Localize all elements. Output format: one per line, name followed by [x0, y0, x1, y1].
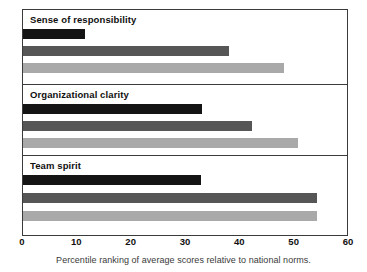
panel-bar-group: [23, 175, 347, 229]
bar-bar-1: [23, 29, 85, 39]
bar-row: [23, 121, 347, 131]
bar-row: [23, 211, 347, 221]
bar-bar-2: [23, 193, 317, 203]
panel-label: Sense of responsibility: [30, 14, 136, 25]
bar-row: [23, 63, 347, 73]
bar-bar-3: [23, 211, 317, 221]
x-tick-label-60: 60: [343, 236, 354, 247]
x-axis: 0102030405060: [22, 236, 348, 252]
bar-bar-1: [23, 175, 201, 185]
panel-bar-group: [23, 104, 347, 155]
panel-bar-group: [23, 29, 347, 80]
bar-row: [23, 175, 347, 185]
chart-caption: Percentile ranking of average scores rel…: [0, 255, 367, 265]
bar-bar-3: [23, 138, 298, 148]
x-tick-label-50: 50: [288, 236, 299, 247]
plot-area: Sense of responsibilityOrganizational cl…: [22, 9, 348, 236]
chart-panel: Team spirit: [23, 156, 347, 234]
x-tick-label-30: 30: [180, 236, 191, 247]
x-tick-label-0: 0: [19, 236, 24, 247]
panel-label: Team spirit: [30, 160, 81, 171]
x-tick-label-20: 20: [125, 236, 136, 247]
bar-bar-2: [23, 121, 252, 131]
bar-chart-figure: Sense of responsibilityOrganizational cl…: [0, 0, 367, 272]
chart-panel: Organizational clarity: [23, 85, 347, 156]
x-tick-label-10: 10: [71, 236, 82, 247]
x-tick-label-40: 40: [234, 236, 245, 247]
bar-row: [23, 138, 347, 148]
bar-row: [23, 104, 347, 114]
bar-bar-3: [23, 63, 284, 73]
bar-row: [23, 193, 347, 203]
bar-bar-1: [23, 104, 202, 114]
bar-row: [23, 46, 347, 56]
bar-bar-2: [23, 46, 229, 56]
chart-panel: Sense of responsibility: [23, 10, 347, 85]
bar-row: [23, 29, 347, 39]
panel-label: Organizational clarity: [30, 89, 129, 100]
